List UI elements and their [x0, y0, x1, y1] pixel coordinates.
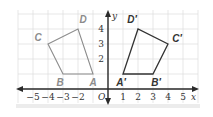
origin-label: O — [98, 92, 106, 102]
y-tick-label: 3 — [98, 39, 104, 49]
vertex-label: A′ — [115, 77, 126, 88]
y-tick-label: 4 — [98, 24, 104, 34]
x-tick-label: 2 — [135, 92, 141, 102]
vertex-label: B′ — [151, 77, 161, 88]
y-axis-arrow-up — [105, 10, 111, 17]
x-tick-label: −4 — [41, 92, 55, 102]
axes: x y O — [16, 10, 199, 105]
y-axis-label: y — [111, 11, 118, 21]
coordinate-plane: x y O −5−4−3−212345234 ABCDA′B′C′D′ — [0, 0, 213, 117]
quadrilateral-abcd — [48, 29, 93, 74]
x-tick-label: −5 — [26, 92, 40, 102]
quadrilateral-image — [123, 29, 168, 74]
x-tick-label: 1 — [120, 92, 126, 102]
x-axis-label: x — [191, 92, 196, 102]
x-tick-label: −2 — [71, 92, 84, 102]
x-tick-label: 3 — [150, 92, 156, 102]
vertex-label: A — [88, 77, 96, 88]
tick-labels: −5−4−3−212345234 — [26, 24, 186, 102]
y-tick-label: 2 — [98, 54, 104, 64]
x-tick-label: 4 — [165, 92, 171, 102]
vertex-label: D — [79, 14, 86, 25]
vertex-label: D′ — [127, 14, 137, 25]
x-tick-label: 5 — [180, 92, 186, 102]
vertex-label: C — [34, 32, 42, 43]
vertex-label: C′ — [172, 33, 182, 44]
x-tick-label: −3 — [56, 92, 70, 102]
vertex-label: B — [56, 77, 63, 88]
x-axis-arrow-left — [16, 86, 23, 92]
y-axis-arrow-down — [105, 98, 111, 105]
